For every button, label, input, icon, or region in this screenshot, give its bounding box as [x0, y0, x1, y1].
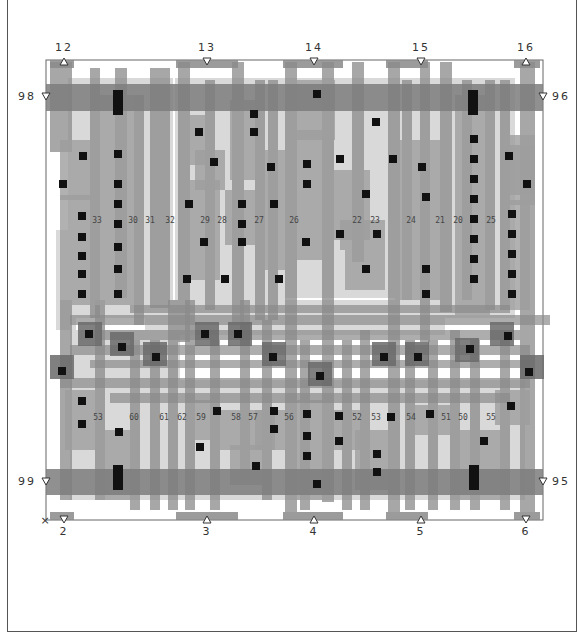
net-label-upper: 30: [128, 216, 138, 225]
contact: [373, 450, 381, 458]
contact: [78, 212, 86, 220]
contact: [523, 180, 531, 188]
contact: [470, 155, 478, 163]
contact: [210, 158, 218, 166]
contact: [313, 480, 321, 488]
net-label-upper: 23: [370, 216, 380, 225]
top-pin-label-12: 12: [55, 41, 73, 54]
top-pin-label-13: 13: [198, 41, 216, 54]
net-label-lower: 57: [248, 413, 258, 422]
contact: [185, 200, 193, 208]
routing-track: [60, 378, 530, 388]
contact: [115, 428, 123, 436]
contact: [469, 465, 479, 490]
contact: [78, 252, 86, 260]
contact: [336, 155, 344, 163]
contact: [336, 230, 344, 238]
contact: [270, 407, 278, 415]
contact: [270, 200, 278, 208]
cell-layout: 3330313229282726222324212025536061625958…: [0, 0, 586, 639]
contact: [426, 410, 434, 418]
contact: [303, 410, 311, 418]
routing-track: [70, 345, 270, 355]
contact: [313, 90, 321, 98]
contact: [302, 238, 310, 246]
side-pin-label-left-bottom: 99: [18, 475, 36, 488]
routing-track: [130, 305, 510, 313]
contact: [221, 275, 229, 283]
net-label-upper: 28: [217, 216, 227, 225]
contact: [152, 353, 160, 361]
contact: [470, 135, 478, 143]
contact: [470, 235, 478, 243]
contact: [504, 332, 512, 340]
contact: [252, 462, 260, 470]
contact: [373, 230, 381, 238]
contact: [470, 175, 478, 183]
contact: [422, 290, 430, 298]
contact: [525, 368, 533, 376]
contact: [113, 465, 123, 490]
contact: [269, 353, 277, 361]
contact: [238, 238, 246, 246]
net-label-upper: 33: [92, 216, 102, 225]
contact: [303, 180, 311, 188]
contact: [183, 275, 191, 283]
contact: [114, 243, 122, 251]
contact: [114, 290, 122, 298]
routing-track: [70, 315, 550, 325]
contact: [505, 152, 513, 160]
contact: [78, 420, 86, 428]
contact: [114, 150, 122, 158]
net-label-upper: 21: [435, 216, 445, 225]
net-label-upper: 22: [352, 216, 362, 225]
net-label-upper: 27: [254, 216, 264, 225]
contact: [59, 180, 67, 188]
contact: [78, 270, 86, 278]
contact: [114, 180, 122, 188]
contact: [78, 233, 86, 241]
contact: [422, 193, 430, 201]
contact: [470, 255, 478, 263]
bottom-pin-label-6: 6: [522, 525, 531, 538]
contact: [316, 372, 324, 380]
contact: [468, 90, 478, 115]
contact: [250, 128, 258, 136]
metal-pad: [60, 140, 100, 200]
contact: [507, 402, 515, 410]
net-label-lower: 55: [486, 413, 496, 422]
contact: [213, 407, 221, 415]
contact: [387, 413, 395, 421]
origin-marker: ×: [40, 514, 51, 527]
side-pin-label-left-top: 98: [18, 90, 36, 103]
contact: [85, 330, 93, 338]
contact: [508, 250, 516, 258]
side-pin-label-right-top: 96: [552, 90, 570, 103]
contact: [380, 353, 388, 361]
contact: [234, 330, 242, 338]
bottom-pin-label-5: 5: [417, 525, 426, 538]
contact: [196, 443, 204, 451]
contact: [250, 110, 258, 118]
net-label-lower: 62: [177, 413, 187, 422]
net-label-lower: 53: [93, 413, 103, 422]
contact: [238, 200, 246, 208]
net-label-lower: 54: [406, 413, 416, 422]
contact: [303, 160, 311, 168]
contact: [114, 220, 122, 228]
net-label-upper: 20: [453, 216, 463, 225]
contact: [238, 220, 246, 228]
contact: [389, 155, 397, 163]
contact: [470, 195, 478, 203]
routing-track: [110, 393, 510, 403]
net-label-lower: 59: [196, 413, 206, 422]
contact: [201, 330, 209, 338]
contact: [373, 468, 381, 476]
contact: [303, 452, 311, 460]
net-label-lower: 60: [129, 413, 139, 422]
contact: [470, 275, 478, 283]
net-label-upper: 24: [406, 216, 416, 225]
net-label-lower: 51: [441, 413, 451, 422]
top-pin-label-14: 14: [305, 41, 323, 54]
contact: [78, 397, 86, 405]
